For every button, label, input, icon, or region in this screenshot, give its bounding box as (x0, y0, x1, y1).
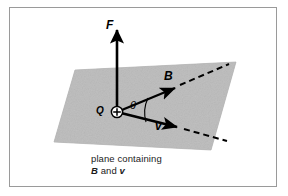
charge-label-Q: Q (96, 105, 104, 116)
diagram-canvas (0, 0, 288, 196)
vector-label-F: F (106, 18, 113, 32)
vector-label-B: B (164, 69, 173, 83)
magnetic-force-diagram: F B v Q θ plane containing B and v (0, 0, 288, 196)
vector-label-v: v (155, 119, 162, 133)
caption-line-2: B and v (91, 165, 125, 177)
caption-conjunction: and (98, 165, 120, 176)
angle-label-theta: θ (130, 99, 136, 111)
charge-plus-icon (111, 106, 122, 117)
caption-line-1: plane containing (91, 153, 162, 165)
caption-symbol-v: v (120, 165, 125, 176)
caption-symbol-b: B (91, 165, 98, 176)
